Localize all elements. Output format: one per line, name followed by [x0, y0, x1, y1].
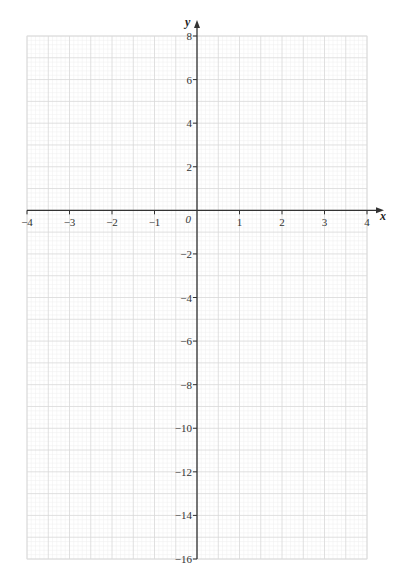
x-tick-label: −2 [106, 216, 118, 228]
x-tick-label: −4 [21, 216, 33, 228]
y-axis-label: y [183, 15, 191, 29]
y-tick-label: −12 [175, 466, 192, 478]
origin-label: 0 [186, 213, 192, 225]
y-tick-label: −2 [180, 248, 192, 260]
y-tick-label: −8 [180, 379, 192, 391]
y-tick-label: −14 [175, 509, 193, 521]
y-tick-label: 8 [187, 30, 193, 42]
y-tick-label: 2 [187, 161, 193, 173]
x-tick-label: 2 [279, 216, 285, 228]
x-axis-label: x [379, 209, 386, 223]
x-tick-label: 3 [322, 216, 328, 228]
x-tick-label: −1 [149, 216, 161, 228]
x-tick-label: 1 [237, 216, 243, 228]
x-tick-label: 4 [364, 216, 370, 228]
x-tick-label: −3 [64, 216, 76, 228]
y-tick-label: 6 [187, 74, 193, 86]
y-tick-label: −10 [175, 422, 193, 434]
y-tick-label: −16 [175, 553, 193, 565]
graph-paper-chart: −4−3−2−112348642−2−4−6−8−10−12−14−16 x y… [0, 0, 407, 585]
y-tick-label: 4 [187, 117, 193, 129]
y-tick-label: −4 [180, 292, 192, 304]
y-tick-label: −6 [180, 335, 192, 347]
